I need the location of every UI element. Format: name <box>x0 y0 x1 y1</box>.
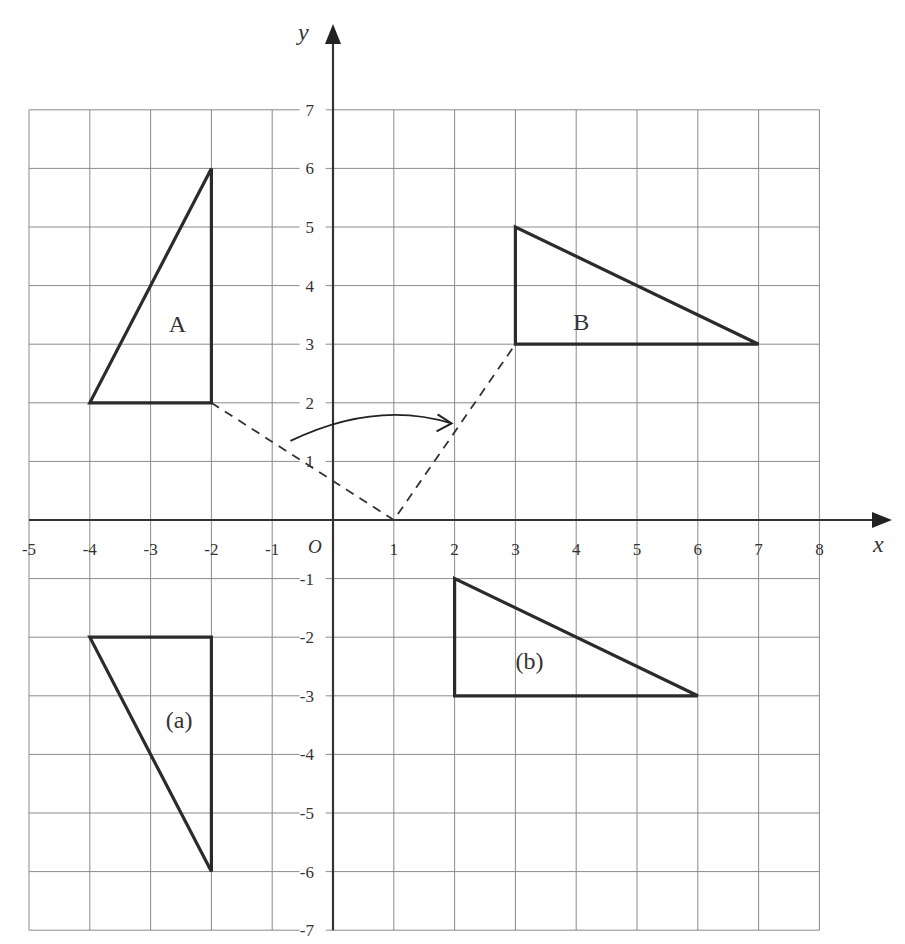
y-tick-label: 6 <box>305 159 314 178</box>
y-axis-label: y <box>296 19 309 45</box>
y-tick-label: -1 <box>300 570 314 589</box>
y-tick-label: 5 <box>305 218 314 237</box>
x-tick-label: 8 <box>815 540 824 559</box>
x-tick-label: -5 <box>22 540 36 559</box>
rotation-guides <box>211 344 515 520</box>
arrowhead-icon <box>437 414 452 431</box>
x-tick-labels: -5-4-3-2-112345678 <box>22 540 824 559</box>
x-axis-label: x <box>872 531 884 557</box>
x-tick-label: 4 <box>572 540 581 559</box>
y-tick-label: -6 <box>300 863 314 882</box>
y-tick-label: -2 <box>300 628 314 647</box>
y-tick-label: 2 <box>305 394 314 413</box>
x-tick-label: -1 <box>265 540 279 559</box>
triangle-label: (a) <box>166 707 193 733</box>
x-tick-label: -3 <box>144 540 158 559</box>
x-tick-label: 2 <box>450 540 459 559</box>
x-axis-arrowhead-icon <box>872 512 892 528</box>
x-tick-label: 1 <box>390 540 399 559</box>
x-tick-label: 7 <box>754 540 763 559</box>
triangle-label: A <box>169 311 187 337</box>
y-axis-arrowhead-icon <box>325 24 341 44</box>
triangle-label: (b) <box>515 648 543 674</box>
y-tick-label: 4 <box>305 277 314 296</box>
y-tick-label: -3 <box>300 687 314 706</box>
axes: x y O <box>29 19 892 930</box>
rotation-dashed-lines <box>211 344 515 520</box>
rotation-arc-arrow <box>290 415 451 441</box>
y-tick-label: -5 <box>300 804 314 823</box>
x-tick-label: -4 <box>83 540 98 559</box>
triangle-label: B <box>573 309 589 335</box>
y-tick-label: -4 <box>300 745 315 764</box>
x-tick-label: -2 <box>204 540 218 559</box>
x-tick-label: 3 <box>511 540 520 559</box>
origin-label: O <box>308 536 322 557</box>
x-tick-label: 5 <box>633 540 642 559</box>
y-tick-label: 3 <box>305 335 314 354</box>
y-tick-label: -7 <box>300 921 315 940</box>
y-tick-label: 7 <box>305 101 314 120</box>
x-tick-label: 6 <box>694 540 703 559</box>
coordinate-plane: x y O -5-4-3-2-112345678 7654321-1-2-3-4… <box>0 0 905 944</box>
